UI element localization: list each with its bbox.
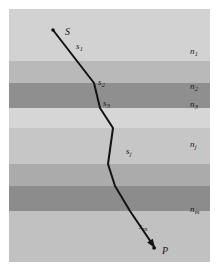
- medium-label-nm: nm: [190, 205, 199, 214]
- medium-label-nj: nj: [190, 140, 197, 149]
- ray-polyline: [53, 30, 155, 248]
- ray-path-svg: [9, 9, 210, 262]
- segment-label-s1: s1: [76, 42, 83, 51]
- medium-label-n1: n1: [190, 47, 198, 56]
- ray-arrowhead: [147, 239, 155, 248]
- figure-root: n1 n2 n3 nj nm s1 s2 s3 sj sm S P: [0, 0, 218, 278]
- segment-label-sj: sj: [126, 147, 132, 156]
- segment-label-sm: sm: [139, 222, 147, 231]
- source-point-label: S: [65, 27, 70, 37]
- source-point-dot: [51, 28, 55, 32]
- diagram-frame: n1 n2 n3 nj nm s1 s2 s3 sj sm S P: [9, 9, 210, 262]
- medium-label-n2: n2: [190, 82, 198, 91]
- segment-label-s2: s2: [98, 78, 105, 87]
- medium-label-n3: n3: [190, 100, 198, 109]
- segment-label-s3: s3: [103, 99, 110, 108]
- destination-point-label: P: [162, 246, 168, 256]
